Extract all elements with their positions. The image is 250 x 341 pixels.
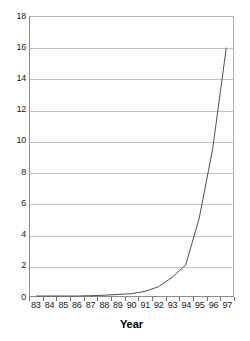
y-axis-tick-label: 4: [0, 230, 26, 239]
x-axis-tick-label: 94: [181, 300, 190, 310]
x-axis-tick-label: 97: [222, 300, 231, 310]
x-axis-tick-label: 89: [113, 300, 122, 310]
x-axis-tick-label: 85: [58, 300, 67, 310]
y-axis-tick-label: 10: [0, 136, 26, 145]
x-axis-tick-label: 96: [209, 300, 218, 310]
x-axis-tick: [179, 297, 180, 301]
y-axis-tick-label: 0: [0, 293, 26, 302]
x-axis-tick-label: 95: [195, 300, 204, 310]
x-axis-tick: [220, 297, 221, 301]
x-axis-tick: [111, 297, 112, 301]
x-axis-tick: [97, 297, 98, 301]
x-axis-tick: [70, 297, 71, 301]
y-axis-tick-label: 2: [0, 261, 26, 270]
x-axis-tick: [234, 297, 235, 301]
plot-area: [29, 16, 234, 297]
x-axis-tick-label: 83: [31, 300, 40, 310]
y-axis-tick-labels: 024681012141618: [0, 0, 26, 341]
x-axis-tick-label: 84: [45, 300, 54, 310]
x-axis-tick-label: 90: [127, 300, 136, 310]
x-axis: 838485868788899091929394959697: [29, 297, 234, 311]
y-axis-tick-label: 14: [0, 74, 26, 83]
x-axis-tick: [29, 297, 30, 301]
x-axis-tick-label: 93: [168, 300, 177, 310]
series-polyline: [37, 48, 226, 296]
x-axis-title: Year: [29, 318, 234, 330]
y-axis-tick-label: 18: [0, 12, 26, 21]
y-axis-tick-label: 12: [0, 105, 26, 114]
x-axis-tick: [56, 297, 57, 301]
x-axis-tick-label: 86: [72, 300, 81, 310]
line-chart: 024681012141618 838485868788899091929394…: [0, 0, 250, 341]
y-axis-tick-label: 16: [0, 43, 26, 52]
x-axis-tick-label: 88: [99, 300, 108, 310]
x-axis-tick-label: 91: [140, 300, 149, 310]
x-axis-tick-label: 87: [86, 300, 95, 310]
x-axis-tick-label: 92: [154, 300, 163, 310]
y-axis-tick-label: 8: [0, 168, 26, 177]
x-axis-tick: [138, 297, 139, 301]
x-axis-tick: [152, 297, 153, 301]
y-axis-tick-label: 6: [0, 199, 26, 208]
x-axis-tick: [193, 297, 194, 301]
series-line: [30, 17, 233, 296]
